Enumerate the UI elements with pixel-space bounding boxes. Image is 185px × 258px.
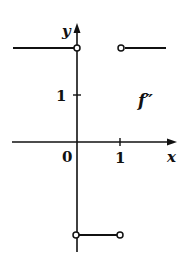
open-endpoint <box>73 232 79 238</box>
function-label: f″ <box>137 90 153 110</box>
x-axis-arrow-icon <box>167 139 177 146</box>
open-endpoint <box>118 45 124 51</box>
open-endpoint <box>117 232 123 238</box>
x-tick-1-label: 1 <box>115 149 125 167</box>
y-tick-1-label: 1 <box>56 87 66 105</box>
x-axis-label: x <box>166 148 177 166</box>
y-axis-arrow-icon <box>74 23 81 33</box>
origin-label: 0 <box>62 148 72 166</box>
y-axis-label: y <box>61 22 72 40</box>
graph-of-f-double-prime: y x 0 1 1 f″ <box>0 0 185 258</box>
open-endpoint <box>74 45 80 51</box>
